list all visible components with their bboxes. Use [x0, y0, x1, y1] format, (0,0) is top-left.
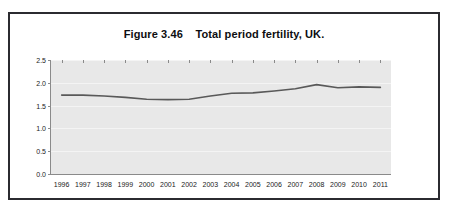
x-axis-tick-label: 2008 — [309, 181, 325, 188]
y-axis-tick-label: 0.0 — [36, 171, 46, 178]
x-axis-tick-label: 2011 — [373, 181, 388, 188]
x-axis-tick-label: 2005 — [245, 181, 261, 188]
x-axis-tick-label: 1998 — [96, 181, 112, 188]
y-axis-tick-label: 1.5 — [36, 102, 46, 109]
y-axis-tick-label: 2.0 — [36, 79, 46, 86]
figure-title: Figure 3.46 Total period fertility, UK. — [10, 28, 438, 40]
x-axis-tick-label: 2002 — [181, 181, 197, 188]
x-axis-tick-label: 2006 — [266, 181, 282, 188]
x-axis-tick-label: 2007 — [288, 181, 304, 188]
line-series-svg — [51, 60, 391, 174]
chart-plot-area: 0.00.51.01.52.02.5 199619971998199920002… — [50, 60, 391, 175]
y-axis-tick-label: 2.5 — [36, 57, 46, 64]
x-axis-tick-label: 1996 — [54, 181, 70, 188]
x-axis-tick-label: 2004 — [224, 181, 240, 188]
figure-frame: Figure 3.46 Total period fertility, UK. … — [8, 12, 440, 200]
y-axis-tick-mark — [48, 174, 51, 175]
x-axis-tick-label: 1997 — [75, 181, 91, 188]
x-axis-tick-label: 2001 — [160, 181, 176, 188]
y-axis-tick-label: 0.5 — [36, 148, 46, 155]
x-axis-tick-label: 2009 — [330, 181, 346, 188]
x-axis-tick-label: 1999 — [118, 181, 134, 188]
series-line-total-period-fertility — [62, 85, 381, 100]
x-axis-tick-label: 2003 — [203, 181, 219, 188]
y-axis-tick-label: 1.0 — [36, 125, 46, 132]
x-axis-tick-label: 2000 — [139, 181, 155, 188]
x-axis-tick-label: 2010 — [351, 181, 367, 188]
